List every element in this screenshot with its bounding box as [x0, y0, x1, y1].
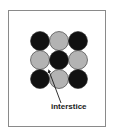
circle-packing-diagram [0, 0, 115, 140]
circle-grid [31, 32, 88, 89]
circle-dark [50, 51, 69, 70]
circle-dark [31, 70, 50, 89]
circle-light [69, 51, 88, 70]
circle-dark [69, 70, 88, 89]
interstice-label: interstice [51, 102, 87, 111]
circle-dark [69, 32, 88, 51]
circle-light [31, 51, 50, 70]
circle-dark [31, 32, 50, 51]
circle-light [50, 32, 69, 51]
